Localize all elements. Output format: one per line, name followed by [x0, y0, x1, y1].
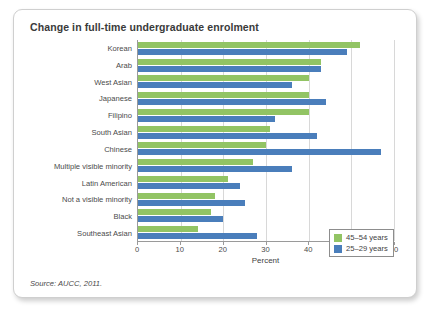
legend-item: 25–29 years [334, 244, 388, 253]
bar-group [138, 157, 394, 174]
bar [138, 49, 347, 55]
legend-label: 25–29 years [346, 244, 388, 253]
bar-group [138, 107, 394, 124]
bar [138, 92, 309, 98]
x-tick-label: 40 [304, 245, 312, 254]
bar [138, 200, 245, 206]
bar-group [138, 141, 394, 158]
bar [138, 159, 253, 165]
bar [138, 116, 275, 122]
category-label: Japanese [28, 90, 137, 107]
bar [138, 233, 257, 239]
bar-group [138, 208, 394, 225]
legend-label: 45–54 years [346, 233, 388, 242]
bar [138, 149, 381, 155]
plot-wrapper: KoreanArabWest AsianJapaneseFilipinoSout… [28, 40, 402, 254]
bar [138, 82, 292, 88]
bar-group [138, 40, 394, 57]
source-note: Source: AUCC, 2011. [30, 279, 102, 288]
chart-legend: 45–54 years25–29 years [329, 229, 394, 257]
bar [138, 226, 198, 232]
bar [138, 42, 360, 48]
bar-group [138, 74, 394, 91]
bar [138, 109, 309, 115]
bar-group [138, 174, 394, 191]
category-label: Korean [28, 40, 137, 57]
category-label: Black [28, 208, 137, 225]
chart-title: Change in full-time undergraduate enrolm… [30, 21, 402, 34]
chart-card: Change in full-time undergraduate enrolm… [13, 9, 417, 298]
bar [138, 66, 321, 72]
bar [138, 59, 321, 65]
category-label: West Asian [28, 74, 137, 91]
bar [138, 75, 309, 81]
bar-group [138, 124, 394, 141]
category-label: Latin American [28, 175, 137, 192]
chart-card-inner: Change in full-time undergraduate enrolm… [14, 10, 416, 297]
category-label: Southeast Asian [28, 225, 137, 242]
plot-area [137, 40, 394, 242]
category-label: South Asian [28, 124, 137, 141]
x-tick-label: 0 [135, 245, 139, 254]
bar [138, 166, 292, 172]
bar-group [138, 57, 394, 74]
legend-swatch [334, 245, 342, 253]
legend-item: 45–54 years [334, 233, 388, 242]
bar [138, 183, 240, 189]
x-tick-label: 10 [176, 245, 184, 254]
bar [138, 209, 211, 215]
x-tick-label: 30 [261, 245, 269, 254]
bar-group [138, 90, 394, 107]
category-label: Multiple visible minority [28, 158, 137, 175]
bar [138, 216, 223, 222]
bar [138, 193, 215, 199]
x-tick-label: 20 [218, 245, 226, 254]
bar [138, 142, 266, 148]
category-label: Not a visible minority [28, 191, 137, 208]
category-axis: KoreanArabWest AsianJapaneseFilipinoSout… [28, 40, 137, 242]
legend-swatch [334, 234, 342, 242]
bar [138, 99, 326, 105]
bar [138, 133, 317, 139]
bar-group [138, 191, 394, 208]
category-label: Filipino [28, 107, 137, 124]
bar [138, 176, 228, 182]
category-label: Chinese [28, 141, 137, 158]
x-axis-title: Percent [137, 256, 394, 265]
category-label: Arab [28, 57, 137, 74]
gridline [394, 40, 395, 241]
bar-rows [138, 40, 394, 241]
bar [138, 126, 270, 132]
